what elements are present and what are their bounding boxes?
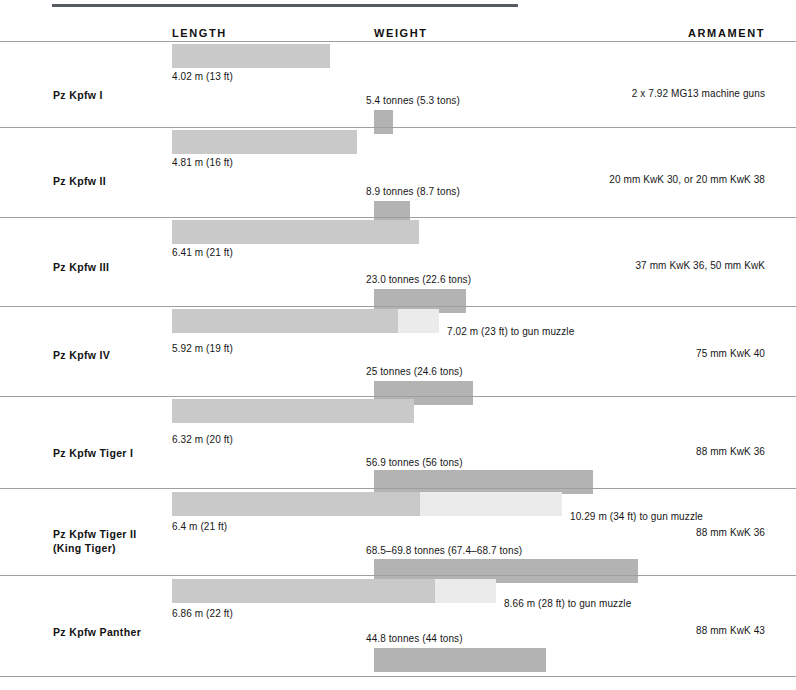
row-divider bbox=[0, 127, 796, 128]
tank-name-label: Pz Kpfw III bbox=[53, 260, 109, 274]
weight-value-label: 8.9 tonnes (8.7 tons) bbox=[366, 186, 460, 197]
length-value-label: 6.41 m (21 ft) bbox=[172, 247, 233, 258]
column-header-armament: ARMAMENT bbox=[688, 27, 765, 39]
weight-value-label: 23.0 tonnes (22.6 tons) bbox=[366, 274, 471, 285]
row-divider bbox=[0, 306, 796, 307]
tank-name-label: Pz Kpfw Tiger II (King Tiger) bbox=[53, 527, 137, 555]
weight-value-label: 5.4 tonnes (5.3 tons) bbox=[366, 95, 460, 106]
length-value-label: 6.32 m (20 ft) bbox=[172, 434, 233, 445]
tank-name-label: Pz Kpfw I bbox=[53, 88, 103, 102]
tank-name-label: Pz Kpfw Panther bbox=[53, 625, 141, 639]
row-divider bbox=[0, 41, 796, 42]
tank-name-label: Pz Kpfw IV bbox=[53, 348, 110, 362]
row-divider bbox=[0, 217, 796, 218]
armament-value-label: 75 mm KwK 40 bbox=[696, 348, 765, 359]
tank-name-label: Pz Kpfw II bbox=[53, 174, 106, 188]
length-value-label: 4.81 m (16 ft) bbox=[172, 157, 233, 168]
weight-bar bbox=[374, 110, 393, 134]
length-value-label: 5.92 m (19 ft) bbox=[172, 343, 233, 354]
length-muzzle-value-label: 10.29 m (34 ft) to gun muzzle bbox=[570, 511, 703, 522]
armament-value-label: 88 mm KwK 36 bbox=[696, 527, 765, 538]
length-value-label: 6.4 m (21 ft) bbox=[172, 521, 227, 532]
length-bar bbox=[172, 492, 420, 516]
length-bar bbox=[172, 130, 357, 154]
length-muzzle-value-label: 7.02 m (23 ft) to gun muzzle bbox=[447, 326, 574, 337]
length-bar bbox=[172, 44, 330, 68]
row-divider bbox=[0, 396, 796, 397]
length-bar bbox=[172, 309, 398, 333]
armament-value-label: 2 x 7.92 MG13 machine guns bbox=[632, 88, 765, 99]
tank-name-label: Pz Kpfw Tiger I bbox=[53, 446, 133, 460]
length-muzzle-value-label: 8.66 m (28 ft) to gun muzzle bbox=[504, 598, 631, 609]
bottom-divider bbox=[0, 676, 796, 677]
weight-value-label: 56.9 tonnes (56 tons) bbox=[366, 457, 463, 468]
row-divider bbox=[0, 488, 796, 489]
length-bar bbox=[172, 399, 414, 423]
armament-value-label: 88 mm KwK 36 bbox=[696, 446, 765, 457]
length-value-label: 6.86 m (22 ft) bbox=[172, 608, 233, 619]
length-value-label: 4.02 m (13 ft) bbox=[172, 71, 233, 82]
length-bar bbox=[172, 220, 419, 244]
tank-comparison-chart: LENGTH WEIGHT ARMAMENT Pz Kpfw I4.02 m (… bbox=[0, 0, 796, 690]
weight-value-label: 68.5–69.8 tonnes (67.4–68.7 tons) bbox=[366, 545, 522, 556]
armament-value-label: 88 mm KwK 43 bbox=[696, 625, 765, 636]
weight-bar bbox=[374, 648, 546, 672]
row-divider bbox=[0, 575, 796, 576]
length-bar bbox=[172, 579, 435, 603]
armament-value-label: 37 mm KwK 36, 50 mm KwK bbox=[635, 260, 765, 271]
top-decorative-rule bbox=[52, 4, 518, 7]
weight-value-label: 44.8 tonnes (44 tons) bbox=[366, 633, 463, 644]
column-header-length: LENGTH bbox=[172, 27, 227, 39]
armament-value-label: 20 mm KwK 30, or 20 mm KwK 38 bbox=[609, 174, 765, 185]
weight-bar bbox=[374, 470, 593, 494]
column-header-weight: WEIGHT bbox=[374, 27, 428, 39]
weight-value-label: 25 tonnes (24.6 tons) bbox=[366, 366, 463, 377]
